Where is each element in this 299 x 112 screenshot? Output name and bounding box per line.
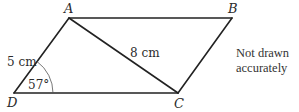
- diagonal-ac: [69, 18, 178, 93]
- note-line-2: accurately: [236, 61, 289, 76]
- note-line-1: Not drawn: [236, 46, 289, 61]
- not-drawn-accurately-note: Not drawn accurately: [236, 46, 289, 76]
- vertex-label-c: C: [174, 96, 184, 111]
- length-label-ac: 8 cm: [130, 46, 160, 60]
- length-label-ad: 5 cm: [7, 55, 37, 69]
- vertex-label-d: D: [6, 95, 18, 110]
- angle-label-d: 57°: [28, 78, 49, 92]
- edge-bc: [178, 18, 232, 93]
- vertex-label-b: B: [227, 1, 238, 16]
- vertex-label-a: A: [63, 1, 73, 16]
